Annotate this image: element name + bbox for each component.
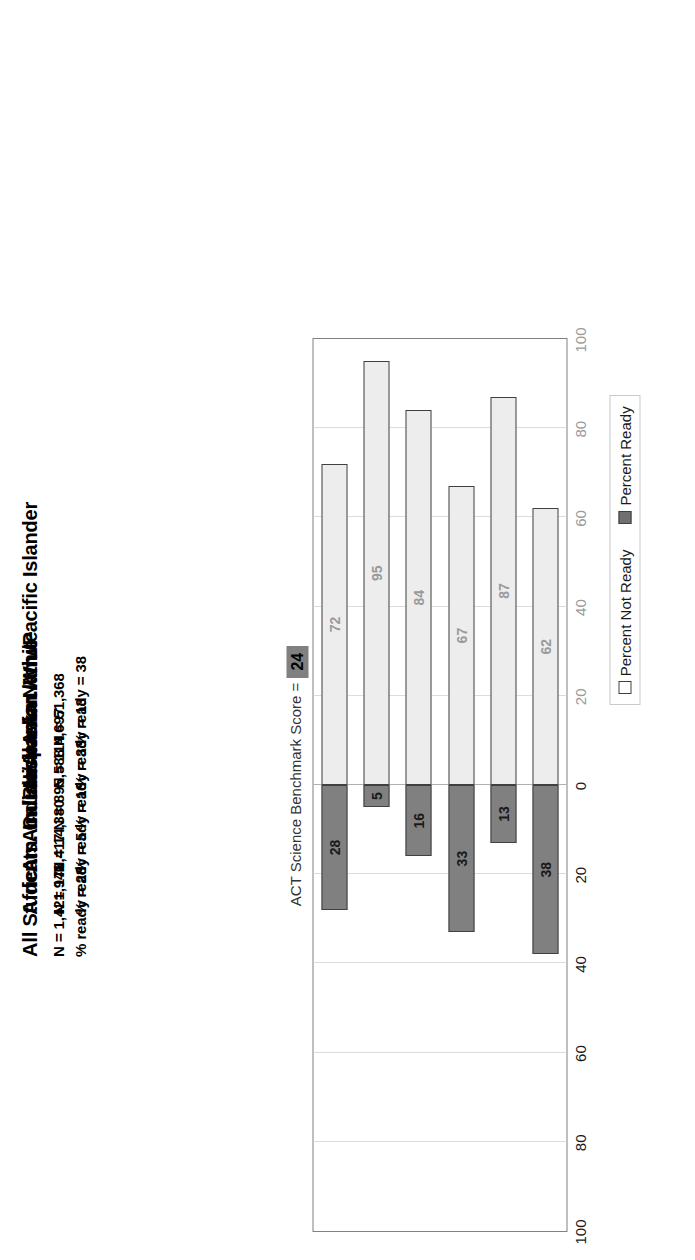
value-axis: 10080604020020406080100 [569,340,595,1232]
bar-value-label-not-ready: 67 [453,628,469,644]
group-header-block: All StudentsN = 1,421,941% ready = 28Afr… [0,0,200,1260]
gridline [313,1141,566,1142]
legend-item-ready: Percent Ready [616,406,633,523]
legend-label-not-ready: Percent Not Ready [616,550,633,677]
chart-title: ACT Science Benchmark Score =24 [286,616,308,936]
bar-value-label-ready: 16 [410,813,426,829]
bar-value-label-not-ready: 72 [326,617,342,633]
gridline [313,873,566,874]
legend-swatch-ready-icon [618,511,631,524]
bar-value-label-not-ready: 84 [410,590,426,606]
zero-axis-line [313,784,566,785]
group-label-block: Asian Am./Pacific IslanderN = 51,368% re… [18,502,93,746]
chart-figure: All StudentsN = 1,421,941% ready = 28Afr… [0,0,695,1260]
benchmark-score-badge: 24 [286,646,308,678]
bar-value-label-ready: 33 [453,851,469,867]
chart-page: All StudentsN = 1,421,941% ready = 28Afr… [0,0,695,1260]
bar-value-label-ready: 38 [537,862,553,878]
group-n-value: N = 51,368 [49,502,66,746]
axis-tick-label: 100 [571,327,588,352]
axis-tick-label: 80 [571,1134,588,1151]
gridline [313,606,566,607]
chart-legend: Percent Not Ready Percent Ready [609,395,640,705]
bar-value-label-ready: 28 [326,840,342,856]
axis-tick-label: 80 [571,421,588,438]
gridline [313,695,566,696]
chart-title-text: ACT Science Benchmark Score = [287,683,304,907]
axis-tick-label: 40 [571,956,588,973]
legend-swatch-not-ready-icon [618,681,631,694]
axis-tick-label: 0 [571,782,588,790]
bar-value-label-not-ready: 87 [495,583,511,599]
bar-value-label-ready: 5 [368,792,384,800]
bar-value-label-ready: 13 [495,806,511,822]
axis-tick-label: 60 [571,510,588,527]
plot-area: 28725951684336713873862 [312,338,567,1232]
axis-tick-label: 100 [571,1219,588,1244]
gridline [313,962,566,963]
axis-tick-label: 40 [571,599,588,616]
bar-value-label-not-ready: 62 [537,639,553,655]
axis-tick-label: 20 [571,688,588,705]
legend-label-ready: Percent Ready [616,406,633,505]
bar-value-label-not-ready: 95 [368,565,384,581]
axis-tick-label: 60 [571,1045,588,1062]
axis-tick-label: 20 [571,867,588,884]
gridline [313,427,566,428]
group-name: Asian Am./Pacific Islander [18,502,41,746]
gridline [313,516,566,517]
gridline [313,1052,566,1053]
legend-item-not-ready: Percent Not Ready [616,550,633,695]
group-percent-ready: % ready = 38 [71,502,88,746]
